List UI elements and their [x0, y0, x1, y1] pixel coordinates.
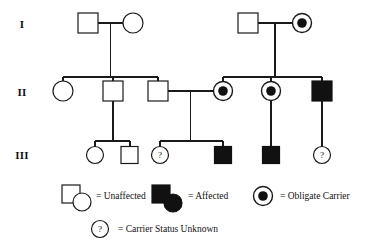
legend-open-circle-icon	[73, 193, 91, 211]
individual-II-6-male-affected	[312, 81, 332, 101]
generation-label-III: III	[15, 149, 28, 161]
legend-symbol-carrier-status-unknown: ?	[92, 221, 109, 238]
individual-II-3-male-unaffected	[148, 81, 168, 101]
individual-I-3-male-unaffected	[238, 13, 258, 33]
legend-symbol-obligate-carrier	[254, 187, 273, 206]
legend-question-mark-glyph: ?	[98, 224, 102, 234]
question-mark-glyph: ?	[158, 150, 162, 160]
legend-filled-circle-icon	[164, 194, 182, 212]
individual-III-6-female-carrier-status-unknown: ?	[314, 147, 331, 164]
legend-label-obligate-carrier: = Obligate Carrier	[280, 191, 351, 201]
pedigree-diagram: I II III	[0, 0, 374, 249]
generation-label-II: II	[18, 86, 27, 98]
generation-III-individuals: ? ?	[87, 147, 331, 164]
legend-carrier-center-dot-icon	[258, 191, 268, 201]
connector-lines	[63, 23, 322, 147]
legend-symbol-affected	[152, 185, 182, 212]
carrier-center-dot	[266, 86, 276, 96]
carrier-center-dot	[297, 18, 307, 28]
legend-label-affected: = Affected	[188, 191, 229, 201]
carrier-center-dot	[218, 86, 228, 96]
individual-III-3-female-carrier-status-unknown: ?	[152, 147, 169, 164]
individual-I-4-female-obligate-carrier	[293, 14, 312, 33]
individual-I-2-female-unaffected	[123, 13, 143, 33]
legend-symbol-unaffected	[62, 185, 91, 211]
individual-I-1-male-unaffected	[78, 13, 98, 33]
legend-label-unaffected: = Unaffected	[96, 191, 146, 201]
individual-II-5-female-obligate-carrier	[262, 82, 281, 101]
legend-label-carrier-status-unknown: = Carrier Status Unknown	[118, 224, 218, 234]
pedigree-chart: I II III	[0, 0, 374, 249]
legend: = Unaffected = Affected = Obligate Carri…	[62, 185, 351, 238]
individual-II-4-female-obligate-carrier	[214, 82, 233, 101]
individual-II-1-female-unaffected	[53, 81, 73, 101]
generation-labels: I II III	[15, 18, 28, 161]
individual-II-2-male-unaffected	[103, 81, 123, 101]
individual-III-5-male-affected	[263, 147, 280, 164]
generation-label-I: I	[20, 18, 24, 30]
individual-III-1-female-unaffected	[87, 147, 104, 164]
question-mark-glyph: ?	[320, 150, 324, 160]
individual-III-4-male-affected	[215, 147, 232, 164]
individual-III-2-male-unaffected	[121, 147, 138, 164]
